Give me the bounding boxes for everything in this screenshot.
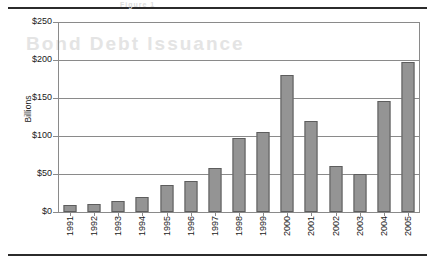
x-axis-tick-label: 2001 [306, 216, 316, 236]
x-axis-tick-label: 2003 [355, 216, 365, 236]
bar-slot [227, 22, 251, 212]
bar-slot [82, 22, 106, 212]
x-axis-tick-label: 2004 [379, 216, 389, 236]
bar-slot [372, 22, 396, 212]
x-axis-tick-label: 1996 [186, 216, 196, 236]
x-axis-tick-label: 2000 [282, 216, 292, 236]
bar [208, 168, 221, 212]
bar-series [58, 22, 420, 212]
bar-slot [299, 22, 323, 212]
x-axis-tick-label: 1997 [210, 216, 220, 236]
bar [353, 174, 366, 212]
bar [112, 201, 125, 212]
bar-slot [396, 22, 420, 212]
bar [160, 185, 173, 212]
bar-slot [58, 22, 82, 212]
bar-slot [179, 22, 203, 212]
y-axis-tick-label: $250 [12, 16, 52, 26]
bar [136, 197, 149, 212]
x-axis-tick-label: 1991 [65, 216, 75, 236]
y-axis-tick-label: $0 [12, 206, 52, 216]
bar-slot [130, 22, 154, 212]
bar-slot [106, 22, 130, 212]
x-axis-tick-label: 1992 [89, 216, 99, 236]
bar-slot [203, 22, 227, 212]
bottom-rule [8, 254, 427, 256]
x-axis-tick-label: 1999 [258, 216, 268, 236]
y-axis-tick-label: $200 [12, 54, 52, 64]
plot-area [58, 22, 420, 212]
bar-slot [275, 22, 299, 212]
bar-slot [155, 22, 179, 212]
bar-slot [323, 22, 347, 212]
bar [377, 101, 390, 212]
x-axis-tick-label: 1994 [137, 216, 147, 236]
bar [329, 166, 342, 212]
bar [281, 75, 294, 212]
x-axis-tick-label: 1993 [113, 216, 123, 236]
bar [401, 62, 414, 212]
bar [184, 181, 197, 212]
bar-slot [348, 22, 372, 212]
bar [88, 204, 101, 212]
bar [257, 132, 270, 212]
y-axis-tick-label: $150 [12, 92, 52, 102]
y-axis-tick-label: $100 [12, 130, 52, 140]
bar [305, 121, 318, 212]
bar-slot [251, 22, 275, 212]
bar [232, 138, 245, 212]
x-axis-tick-label: 1995 [162, 216, 172, 236]
x-axis-tick-label: 2002 [331, 216, 341, 236]
top-rule [8, 7, 427, 9]
chart-figure: Bond Debt Issuance Figure 1 Billions $25… [0, 0, 435, 265]
x-axis-tick-label: 1998 [234, 216, 244, 236]
y-axis-tick-label: $50 [12, 168, 52, 178]
bar [64, 205, 77, 212]
x-axis-tick-label: 2005 [403, 216, 413, 236]
